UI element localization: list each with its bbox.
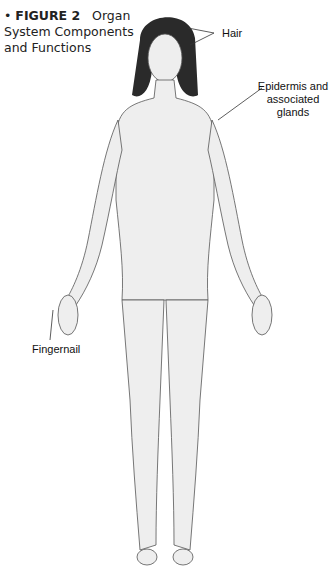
- torso-shape: [116, 80, 214, 300]
- left-foot-shape: [137, 549, 157, 565]
- fingernail-leader-line: [50, 310, 53, 340]
- right-hand-shape: [252, 295, 272, 335]
- fingernail-label: Fingernail: [32, 343, 80, 356]
- right-foot-shape: [173, 549, 193, 565]
- head-shape: [148, 34, 182, 82]
- epidermis-label-line3: glands: [277, 106, 309, 118]
- left-arm-shape: [66, 120, 122, 305]
- right-arm-shape: [208, 120, 264, 305]
- left-leg-shape: [122, 300, 164, 550]
- epidermis-label-line2: associated: [267, 93, 320, 105]
- right-leg-shape: [166, 300, 208, 550]
- hair-label: Hair: [222, 27, 242, 40]
- epidermis-label: Epidermis and associated glands: [252, 80, 332, 119]
- left-hand-shape: [58, 295, 78, 335]
- epidermis-label-line1: Epidermis and: [258, 80, 328, 92]
